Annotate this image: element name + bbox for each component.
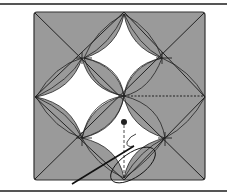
quilt-block-diagram bbox=[0, 0, 227, 196]
pin-dot bbox=[121, 119, 127, 125]
